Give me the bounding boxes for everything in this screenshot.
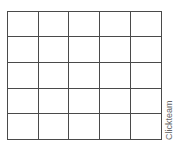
grid-vertical-line (38, 11, 39, 140)
grid-cell (38, 113, 68, 139)
grid-cell (130, 11, 161, 36)
grid-cell (130, 88, 161, 113)
grid-cell (130, 36, 161, 62)
grid-horizontal-line (7, 88, 162, 89)
grid-5x5 (7, 11, 161, 139)
grid-vertical-line (68, 11, 69, 140)
grid-cell (7, 113, 38, 139)
grid-horizontal-line (7, 139, 162, 140)
grid-cell (99, 36, 130, 62)
grid-cell (68, 11, 99, 36)
grid-cell (68, 62, 99, 88)
clickteam-watermark: Clickteam (164, 100, 174, 140)
grid-vertical-line (161, 11, 162, 140)
grid-vertical-line (130, 11, 131, 140)
grid-horizontal-line (7, 11, 162, 12)
grid-cell (38, 88, 68, 113)
grid-cell (130, 113, 161, 139)
grid-vertical-line (7, 11, 8, 140)
grid-cell (99, 62, 130, 88)
grid-horizontal-line (7, 62, 162, 63)
grid-horizontal-line (7, 113, 162, 114)
grid-cell (38, 36, 68, 62)
grid-cell (7, 11, 38, 36)
grid-cell (7, 62, 38, 88)
grid-cell (68, 113, 99, 139)
grid-cell (38, 11, 68, 36)
grid-cell (68, 88, 99, 113)
grid-cell (99, 11, 130, 36)
grid-cell (99, 113, 130, 139)
grid-cell (38, 62, 68, 88)
grid-horizontal-line (7, 36, 162, 37)
grid-cell (99, 88, 130, 113)
grid-cell (7, 36, 38, 62)
grid-cell (7, 88, 38, 113)
grid-vertical-line (99, 11, 100, 140)
grid-cell (130, 62, 161, 88)
grid-cell (68, 36, 99, 62)
